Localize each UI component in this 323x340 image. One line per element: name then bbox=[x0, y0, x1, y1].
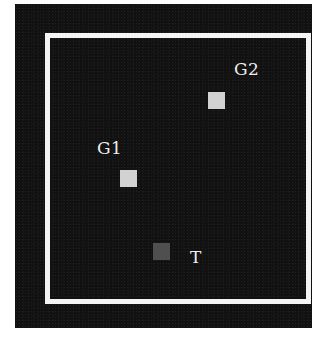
display-frame bbox=[45, 33, 311, 304]
g2-square bbox=[208, 92, 225, 109]
display-panel bbox=[15, 4, 312, 328]
target-square bbox=[153, 243, 170, 260]
g1-label: G1 bbox=[97, 140, 122, 157]
g2-label: G2 bbox=[234, 61, 259, 78]
g1-square bbox=[120, 170, 137, 187]
target-label: T bbox=[190, 249, 202, 266]
